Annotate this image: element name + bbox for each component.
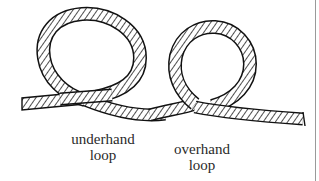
rope-illustration xyxy=(0,0,319,181)
underhand-loop-label: underhand loop xyxy=(58,131,148,163)
right-border-line xyxy=(315,0,316,181)
overhand-label-line1: overhand xyxy=(162,141,242,157)
overhand-label-line2: loop xyxy=(162,157,242,173)
underhand-loop-rope xyxy=(22,14,165,115)
overhand-loop-label: overhand loop xyxy=(162,141,242,173)
rope-loops-diagram: underhand loop overhand loop xyxy=(0,0,319,181)
overhand-loop-rope xyxy=(150,27,305,126)
underhand-label-line2: loop xyxy=(58,147,148,163)
underhand-label-line1: underhand xyxy=(58,131,148,147)
